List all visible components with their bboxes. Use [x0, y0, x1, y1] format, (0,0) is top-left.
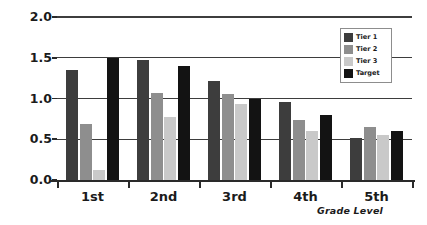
bar-tier-2-4th — [293, 120, 305, 180]
bar-tier-2-1st — [80, 124, 92, 180]
legend-item-label: Tier 2 — [356, 45, 377, 54]
legend-item-label: Tier 3 — [356, 57, 377, 66]
legend-swatch-icon — [344, 69, 353, 78]
legend-item-label: Target — [356, 69, 380, 78]
x-axis-tick-label: 1st — [58, 189, 128, 205]
legend-item-tier-3: Tier 3 — [344, 56, 388, 67]
legend-swatch-icon — [344, 45, 353, 54]
y-axis-tick-mark — [52, 138, 57, 140]
x-axis-tick-label: 3rd — [200, 189, 270, 205]
bar-tier-2-2nd — [151, 93, 163, 180]
bar-tier-1-2nd — [137, 60, 149, 180]
bar-group — [57, 17, 128, 180]
y-axis-tick-mark — [52, 16, 57, 18]
bar-target-3rd — [249, 99, 261, 181]
x-axis-tick-mark — [412, 182, 414, 188]
bar-tier-1-1st — [66, 70, 78, 180]
bar-target-4th — [320, 115, 332, 180]
x-axis-tick-label: 2nd — [129, 189, 199, 205]
bar-group — [128, 17, 199, 180]
y-axis-tick-label: 0.5 — [26, 133, 52, 145]
bar-tier-3-1st — [93, 170, 105, 180]
y-axis-tick-mark — [52, 57, 57, 59]
bar-tier-3-3rd — [235, 104, 247, 180]
x-axis-line — [50, 180, 415, 182]
bar-tier-1-4th — [279, 102, 291, 180]
y-axis-tick-label: 1.0 — [26, 93, 52, 105]
legend-item-label: Tier 1 — [356, 33, 377, 42]
bar-target-2nd — [178, 66, 190, 180]
bar-group — [270, 17, 341, 180]
bar-tier-3-5th — [377, 135, 389, 180]
bar-tier-2-5th — [364, 127, 376, 180]
y-axis-tick-label: 2.0 — [26, 11, 52, 23]
x-axis-title: Grade Level — [290, 205, 410, 216]
x-axis-tick-mark — [57, 182, 59, 188]
y-axis-tick-labels: 0.00.51.01.52.0 — [20, 0, 52, 225]
y-axis-tick-label: 1.5 — [26, 52, 52, 64]
x-axis-tick-mark — [270, 182, 272, 188]
bar-tier-3-2nd — [164, 117, 176, 180]
bar-tier-2-3rd — [222, 94, 234, 180]
y-axis-tick-mark — [52, 98, 57, 100]
x-axis-tick-label: 5th — [342, 189, 412, 205]
legend-swatch-icon — [344, 57, 353, 66]
bar-chart-figure: Rate of Improvement (words correct/week)… — [0, 0, 427, 225]
x-axis-tick-mark — [128, 182, 130, 188]
bar-target-1st — [107, 58, 119, 180]
legend-swatch-icon — [344, 33, 353, 42]
x-axis-tick-mark — [341, 182, 343, 188]
legend-item-tier-1: Tier 1 — [344, 32, 388, 43]
bar-tier-3-4th — [306, 131, 318, 180]
chart-legend: Tier 1Tier 2Tier 3Target — [340, 28, 392, 83]
bar-target-5th — [391, 131, 403, 180]
y-axis-tick-mark — [52, 179, 57, 181]
legend-item-target: Target — [344, 68, 388, 79]
bar-group — [199, 17, 270, 180]
x-axis-tick-mark — [199, 182, 201, 188]
y-axis-tick-label: 0.0 — [26, 174, 52, 186]
legend-item-tier-2: Tier 2 — [344, 44, 388, 55]
bar-tier-1-5th — [350, 138, 362, 180]
bar-tier-1-3rd — [208, 81, 220, 180]
x-axis-tick-label: 4th — [271, 189, 341, 205]
